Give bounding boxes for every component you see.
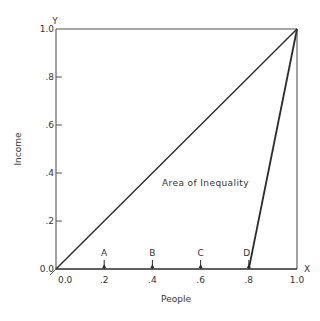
marker-label: D	[243, 248, 250, 258]
marker-arrow-icon	[199, 264, 203, 268]
x-tick-label: .2	[100, 275, 109, 285]
marker-c: C	[197, 248, 203, 269]
marker-label: B	[149, 248, 155, 258]
x-tick-label: .4	[148, 275, 157, 285]
y-tick-label: .2	[45, 216, 54, 226]
x-axis-ticks: 0.0.2.4.6.81.0	[58, 275, 304, 285]
inequality-line	[249, 29, 297, 269]
x-tick-label: 0.0	[58, 275, 73, 285]
chart-labels: Y X Income People Area of Inequality	[13, 16, 310, 304]
lorenz-curve-chart: 0.0.2.4.6.81.0 0.0.2.4.6.81.0 ABCD Y X I…	[0, 0, 320, 321]
y-tick-label: 0.0	[40, 264, 55, 274]
x-tick-label: .8	[245, 275, 254, 285]
marker-arrow-icon	[102, 264, 106, 268]
x-axis-title: People	[161, 294, 191, 304]
x-tick-label: 1.0	[290, 275, 305, 285]
y-axis-letter: Y	[51, 16, 58, 26]
marker-a: A	[101, 248, 108, 269]
marker-b: B	[149, 248, 155, 269]
x-axis-letter: X	[304, 264, 310, 274]
marker-arrow-icon	[150, 264, 154, 268]
x-tick-label: .6	[196, 275, 205, 285]
marker-label: A	[101, 248, 108, 258]
y-axis-ticks: 0.0.2.4.6.81.0	[40, 24, 62, 274]
data-series	[56, 29, 297, 269]
equality-line	[56, 29, 297, 269]
point-markers: ABCD	[101, 248, 251, 269]
y-tick-label: .6	[45, 120, 54, 130]
y-tick-label: .4	[45, 168, 54, 178]
area-of-inequality-label: Area of Inequality	[162, 178, 249, 188]
y-tick-label: .8	[45, 72, 54, 82]
marker-label: C	[197, 248, 203, 258]
y-axis-title: Income	[13, 132, 23, 166]
marker-d: D	[243, 248, 250, 269]
